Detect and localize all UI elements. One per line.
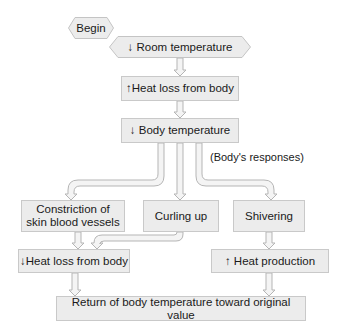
arrow-heatlossdown-to-return xyxy=(69,273,81,296)
constriction-node: Constriction of skin blood vessels xyxy=(21,200,125,232)
begin-node: Begin xyxy=(68,17,114,39)
heat-production-node: ↑ Heat production xyxy=(211,249,329,273)
room-temperature-label: ↓ Room temperature xyxy=(128,41,233,53)
return-label: Return of body temperature toward origin… xyxy=(57,296,305,322)
arrow-constriction-to-heatlossdown xyxy=(72,232,84,249)
return-node: Return of body temperature toward origin… xyxy=(56,296,306,321)
heat-production-label: ↑ Heat production xyxy=(225,255,315,268)
room-temperature-node: ↓ Room temperature xyxy=(109,36,251,58)
arrow-heatproduction-to-return xyxy=(263,273,275,296)
heat-loss-decrease-label: ↓Heat loss from body xyxy=(20,255,128,268)
shivering-node: Shivering xyxy=(233,200,305,232)
arrow-room-to-heatloss xyxy=(174,58,186,76)
body-temperature-node: ↓ Body temperature xyxy=(121,118,239,143)
arrow-curling-to-heatlossdown xyxy=(91,232,183,249)
arrow-bodytemp-to-constriction xyxy=(65,143,164,200)
shivering-label: Shivering xyxy=(245,210,293,223)
arrow-heatloss-to-bodytemp xyxy=(174,101,186,118)
curling-up-node: Curling up xyxy=(143,200,219,232)
flowchart: Begin ↓ Room temperature ↑Heat loss from… xyxy=(0,0,345,336)
arrow-shivering-to-heatproduction xyxy=(263,232,275,249)
heat-loss-increase-node: ↑Heat loss from body xyxy=(121,76,239,101)
heat-loss-increase-label: ↑Heat loss from body xyxy=(126,82,234,95)
constriction-label: Constriction of skin blood vessels xyxy=(26,203,120,229)
begin-label: Begin xyxy=(76,22,105,34)
arrow-bodytemp-to-curling xyxy=(174,143,186,200)
heat-loss-decrease-node: ↓Heat loss from body xyxy=(18,249,130,273)
body-responses-annotation: (Body's responses) xyxy=(210,151,304,163)
body-temperature-label: ↓ Body temperature xyxy=(130,124,230,137)
curling-up-label: Curling up xyxy=(155,210,207,223)
